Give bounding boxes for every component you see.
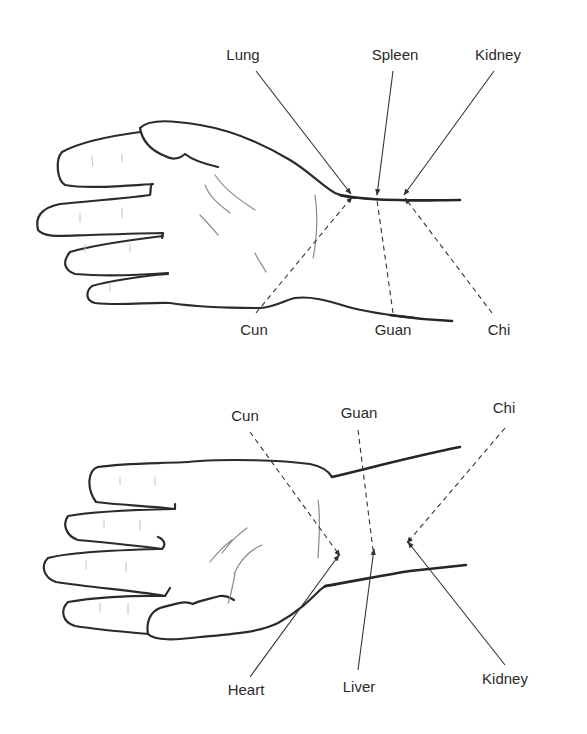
- liver-pointer: [358, 549, 374, 670]
- label-lung: Lung: [226, 47, 259, 62]
- bottom-wrist-upper-line: [332, 447, 460, 477]
- guan-bottom-pointer: [358, 430, 373, 550]
- top-finger-4: [87, 274, 170, 304]
- bottom-thumb: [148, 596, 235, 634]
- bottom-finger-4: [63, 596, 165, 634]
- label-kidney-bottom: Kidney: [482, 671, 528, 686]
- kidney-top-pointer: [404, 71, 494, 195]
- heart-pointer: [250, 555, 339, 677]
- bottom-hand-lower-contour: [148, 585, 335, 639]
- label-guan-top: Guan: [375, 322, 412, 337]
- lung-pointer: [256, 71, 351, 194]
- top-hand-upper-contour: [140, 121, 375, 199]
- chi-top-pointer: [405, 198, 492, 313]
- top-hand-illustration: [37, 121, 460, 321]
- label-chi-bottom: Chi: [493, 400, 516, 415]
- label-chi-top: Chi: [488, 322, 511, 337]
- bottom-hand-illustration: [44, 447, 466, 639]
- top-hand-lower-contour: [170, 297, 415, 318]
- top-finger-1: [58, 132, 153, 187]
- bottom-finger-1: [89, 467, 175, 509]
- bottom-hand-upper-contour: [98, 460, 332, 477]
- spleen-pointer: [377, 71, 393, 195]
- diagram-canvas: [0, 0, 587, 734]
- label-cun-top: Cun: [240, 322, 268, 337]
- label-spleen: Spleen: [372, 47, 419, 62]
- bottom-wrist-lower-line: [325, 565, 466, 586]
- label-heart: Heart: [228, 682, 265, 697]
- guan-top-pointer: [377, 200, 393, 313]
- top-thumb: [140, 128, 218, 167]
- bottom-finger-3: [44, 549, 170, 596]
- label-kidney-top: Kidney: [475, 47, 521, 62]
- bottom-finger-2: [65, 509, 173, 549]
- top-pointers: [256, 71, 494, 313]
- cun-bottom-pointer: [250, 432, 340, 556]
- top-finger-2: [37, 204, 163, 238]
- label-cun-bottom: Cun: [231, 408, 259, 423]
- top-wrist-upper-line: [340, 195, 460, 200]
- cun-top-pointer: [256, 197, 352, 313]
- top-finger-3: [65, 236, 168, 275]
- chi-bottom-pointer: [407, 428, 505, 543]
- kidney-bottom-pointer: [408, 542, 505, 665]
- label-liver: Liver: [343, 679, 376, 694]
- label-guan-bottom: Guan: [341, 405, 378, 420]
